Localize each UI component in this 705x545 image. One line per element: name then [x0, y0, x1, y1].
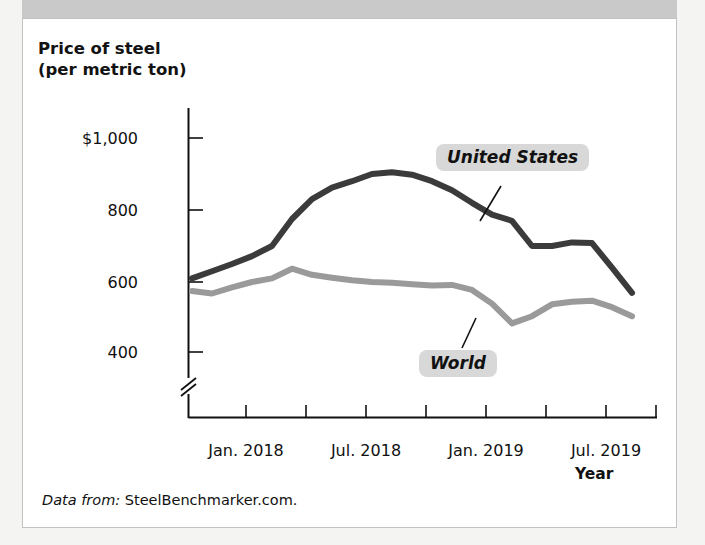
callout-united-states: United States [436, 144, 589, 171]
callout-world: World [419, 350, 497, 377]
chart-plot-area [0, 0, 705, 545]
source-label: Data from: [42, 492, 120, 508]
series-line-world [192, 269, 632, 324]
axis-break-mark [181, 378, 196, 390]
series-line-united-states [192, 172, 632, 293]
callout-leader-world [462, 318, 476, 348]
source-value: SteelBenchmarker.com. [125, 492, 298, 508]
source-note: Data from: SteelBenchmarker.com. [42, 492, 297, 508]
